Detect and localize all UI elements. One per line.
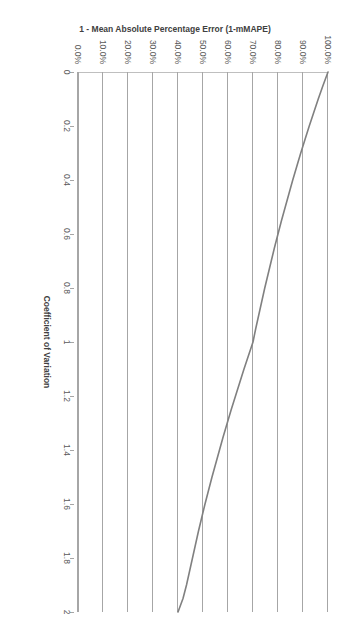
x-tick-label-9: 1.8 xyxy=(62,552,72,564)
x-axis-tick-labels: 00.20.40.60.811.21.41.61.82 xyxy=(56,72,74,612)
series-line-chart xyxy=(78,72,328,612)
x-tick-label-3: 0.6 xyxy=(62,228,72,240)
x-tick-label-5: 1 xyxy=(62,340,72,345)
y-axis-title: 1 - Mean Absolute Percentage Error (1-mM… xyxy=(50,24,300,34)
y-tick-label-2: 20.0% xyxy=(123,40,133,64)
x-tick-label-10: 2 xyxy=(62,610,72,615)
y-tick-label-10: 100.0% xyxy=(323,35,333,64)
x-axis-line xyxy=(78,72,79,612)
y-tick-label-5: 50.0% xyxy=(198,40,208,64)
y-axis-title-container: 1 - Mean Absolute Percentage Error (1-mM… xyxy=(0,0,340,30)
y-tick-label-7: 70.0% xyxy=(248,40,258,64)
x-axis-title: Coefficient of Variation xyxy=(42,72,52,612)
y-tick-label-9: 90.0% xyxy=(298,40,308,64)
chart-figure: 0.0%10.0%20.0%30.0%40.0%50.0%60.0%70.0%8… xyxy=(0,0,340,632)
plot-area xyxy=(78,72,328,612)
y-tick-label-3: 30.0% xyxy=(148,40,158,64)
x-tick-label-6: 1.2 xyxy=(62,390,72,402)
x-tick-label-1: 0.2 xyxy=(62,120,72,132)
y-tick-label-6: 60.0% xyxy=(223,40,233,64)
y-tick-label-1: 10.0% xyxy=(98,40,108,64)
x-tick-label-0: 0 xyxy=(62,70,72,75)
x-tick-label-7: 1.4 xyxy=(62,444,72,456)
x-tick-label-2: 0.4 xyxy=(62,174,72,186)
series-path-1 xyxy=(178,72,328,612)
y-tick-label-8: 80.0% xyxy=(273,40,283,64)
y-tick-label-0: 0.0% xyxy=(73,45,83,64)
x-tick-label-4: 0.8 xyxy=(62,282,72,294)
y-tick-label-4: 40.0% xyxy=(173,40,183,64)
chart-rotation-container: 0.0%10.0%20.0%30.0%40.0%50.0%60.0%70.0%8… xyxy=(0,0,340,632)
x-tick-label-8: 1.6 xyxy=(62,498,72,510)
